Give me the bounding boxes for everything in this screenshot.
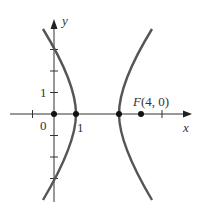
origin-label: 0 xyxy=(40,119,47,132)
x-tick-label-one: 1 xyxy=(77,121,84,134)
origin-point xyxy=(51,111,57,117)
x-axis-label: x xyxy=(183,121,189,134)
focus-coords: (4, 0) xyxy=(141,94,169,109)
y-axis-label: y xyxy=(62,14,68,27)
y-axis-arrow-icon xyxy=(51,19,58,29)
focus-label: F(4, 0) xyxy=(133,95,169,108)
hyperbola-diagram xyxy=(0,0,200,216)
focus-point xyxy=(138,111,144,117)
vertex-point-1 xyxy=(73,111,79,117)
vertex-point-3 xyxy=(116,111,122,117)
x-axis-arrow-icon xyxy=(183,111,192,118)
y-tick-label-one: 1 xyxy=(40,86,47,99)
